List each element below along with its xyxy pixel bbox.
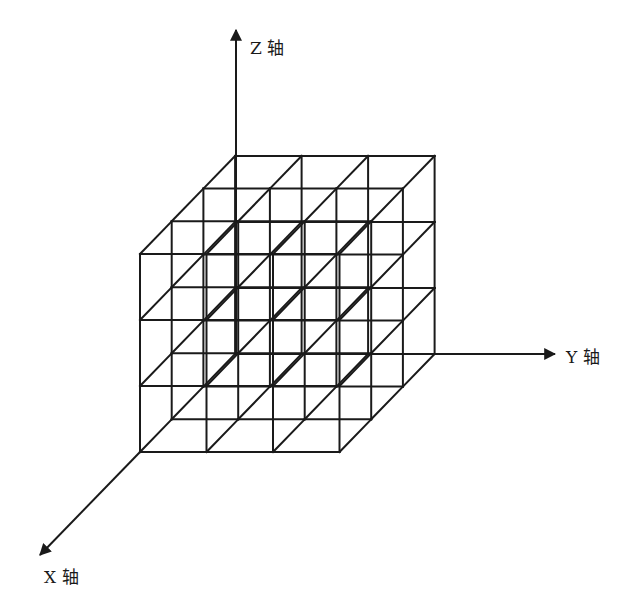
grid-edge — [203, 156, 235, 189]
cube-grid — [140, 156, 435, 452]
grid-edge — [238, 321, 270, 354]
grid-edge — [140, 353, 172, 386]
grid-edge — [238, 189, 270, 222]
grid-edge — [270, 222, 302, 255]
grid-edge — [305, 321, 337, 354]
grid-edge — [172, 189, 204, 222]
grid-edge — [207, 419, 239, 452]
grid-edge — [273, 287, 305, 320]
grid-edge — [403, 222, 435, 255]
grid-edge — [336, 156, 368, 189]
grid-edge — [270, 288, 302, 321]
grid-edge — [340, 353, 372, 386]
grid-edge — [273, 221, 305, 254]
grid-edge — [305, 189, 337, 222]
grid-edge — [403, 354, 435, 387]
grid-edge — [340, 419, 372, 452]
grid-edge — [238, 387, 270, 420]
grid-edge — [207, 221, 239, 254]
grid-edge — [305, 387, 337, 420]
grid-edge — [140, 221, 172, 254]
grid-edge — [403, 156, 435, 189]
z-axis-label: Z 轴 — [250, 34, 284, 59]
y-axis-label: Y 轴 — [566, 343, 600, 368]
grid-edge — [371, 189, 403, 222]
grid-edge — [140, 419, 172, 452]
grid-edge — [203, 288, 235, 321]
grid-edge — [371, 387, 403, 420]
grid-edge — [340, 287, 372, 320]
grid-edge — [336, 354, 368, 387]
grid-edge — [336, 222, 368, 255]
grid-edge — [273, 419, 305, 452]
grid-edge — [207, 353, 239, 386]
grid-edge — [172, 387, 204, 420]
grid-edge — [203, 354, 235, 387]
grid-edge — [140, 287, 172, 320]
grid-edge — [270, 156, 302, 189]
grid-edge — [203, 222, 235, 255]
grid-edge — [207, 287, 239, 320]
grid-edge — [371, 321, 403, 354]
x-axis-line — [40, 452, 140, 555]
grid-edge — [273, 353, 305, 386]
grid-edge — [172, 255, 204, 288]
grid-edge — [305, 255, 337, 288]
grid-edge — [270, 354, 302, 387]
grid-edge — [336, 288, 368, 321]
grid-edge — [340, 221, 372, 254]
cube-lattice-diagram — [0, 0, 637, 613]
grid-edge — [371, 255, 403, 288]
x-axis-label: X 轴 — [44, 563, 79, 588]
grid-edge — [172, 321, 204, 354]
grid-edge — [403, 288, 435, 321]
grid-edge — [238, 255, 270, 288]
